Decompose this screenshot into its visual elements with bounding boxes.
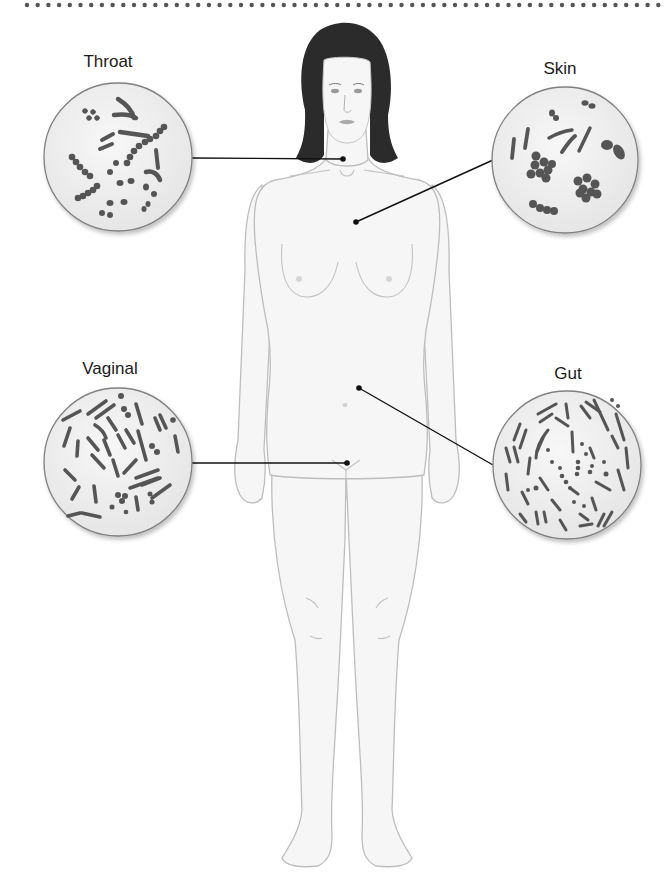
right-nipple bbox=[386, 276, 392, 282]
navel bbox=[343, 403, 348, 407]
skin-label: Skin bbox=[500, 59, 620, 79]
left-leg bbox=[272, 470, 346, 867]
throat-microbe-circle bbox=[44, 83, 192, 231]
top-dotted-border bbox=[25, 3, 661, 7]
diagram-canvas: Throat Skin Vaginal Gut bbox=[0, 0, 671, 873]
face bbox=[323, 57, 371, 143]
left-nipple bbox=[296, 276, 302, 282]
throat-leader-line bbox=[192, 158, 343, 159]
skin-microbe-circle bbox=[492, 87, 638, 233]
throat-label: Throat bbox=[48, 52, 168, 72]
human-body-figure bbox=[235, 130, 460, 867]
gut-label: Gut bbox=[508, 364, 628, 384]
vaginal-label: Vaginal bbox=[50, 359, 170, 379]
head bbox=[296, 23, 398, 163]
vaginal-microbe-circle bbox=[44, 388, 192, 536]
right-leg bbox=[346, 470, 422, 867]
torso bbox=[254, 158, 439, 479]
